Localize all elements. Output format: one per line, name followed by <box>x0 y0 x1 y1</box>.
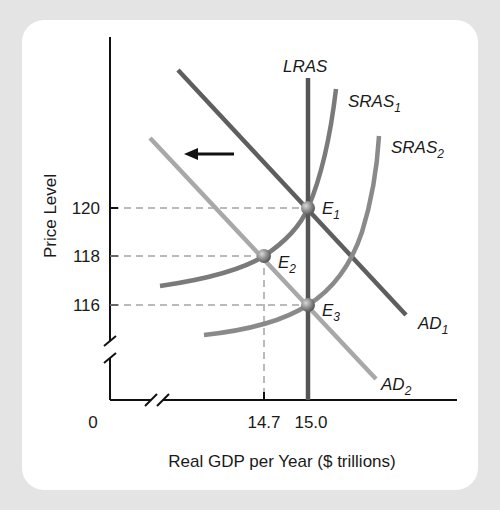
label-sras2: SRAS2 <box>391 138 444 161</box>
point-e3 <box>301 298 315 312</box>
label-lras: LRAS <box>283 57 328 76</box>
label-e1: E1 <box>322 199 340 222</box>
x-tick-14-7: 14.7 <box>247 413 280 432</box>
label-e3: E3 <box>322 301 340 324</box>
shift-arrow-left-icon <box>184 148 234 160</box>
as-ad-diagram: LRAS SRAS1 SRAS2 AD1 AD2 E1 E2 E3 120 11… <box>0 0 500 510</box>
point-e1 <box>301 201 315 215</box>
x-tick-15-0: 15.0 <box>294 413 327 432</box>
label-ad1: AD1 <box>417 314 448 337</box>
label-e2: E2 <box>278 253 296 276</box>
origin-label: 0 <box>88 413 97 432</box>
y-tick-118: 118 <box>73 247 100 266</box>
label-ad2: AD2 <box>380 375 412 398</box>
y-tick-120: 120 <box>72 199 100 218</box>
axes <box>104 37 457 406</box>
y-axis-title: Price Level <box>41 174 60 258</box>
y-tick-116: 116 <box>73 296 100 315</box>
guide-lines <box>112 208 308 400</box>
label-sras1: SRAS1 <box>348 92 401 115</box>
x-axis-title: Real GDP per Year ($ trillions) <box>168 452 395 471</box>
point-e2 <box>257 249 271 263</box>
